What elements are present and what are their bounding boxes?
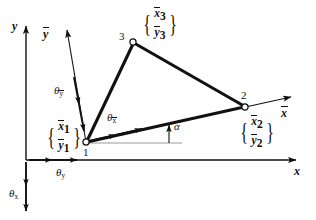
node-1-xbar-component: x1 <box>58 120 70 136</box>
node-label-2: 2 <box>241 90 247 101</box>
local-ybar-axis-label: y <box>43 27 48 40</box>
local-xbar-axis-label: x <box>281 106 287 119</box>
theta-x-label: θx <box>9 188 18 201</box>
alpha-angle-marker <box>88 125 182 143</box>
node-markers <box>83 39 248 145</box>
theta-ybar-double-arrow-a <box>74 77 79 104</box>
brace-left-2: { <box>240 121 248 142</box>
global-y-axis-label: y <box>12 20 17 32</box>
node-3-ybar-component: y3 <box>154 26 165 42</box>
node-3-xbar-component: x3 <box>154 7 166 23</box>
edge-3-2 <box>134 43 244 106</box>
node-marker-2 <box>242 104 248 110</box>
brace-right-3: } <box>169 13 177 34</box>
theta-xbar-label: θx <box>107 112 116 125</box>
node-2-ybar-component: y2 <box>251 134 262 150</box>
element-edges <box>87 43 244 142</box>
node-marker-3 <box>130 39 136 45</box>
node-2-xbar-component: x2 <box>251 115 263 131</box>
node-2-displacement-vector: { x2 y2 } <box>234 111 280 153</box>
brace-left-1: { <box>47 126 55 147</box>
figure-canvas: y x y x θx θy θy θx α 1 2 3 { <box>0 0 316 220</box>
brace-left-3: { <box>143 13 151 34</box>
node-1-ybar-component: y1 <box>58 139 69 155</box>
brace-right-1: } <box>73 126 81 147</box>
node-label-3: 3 <box>119 31 125 42</box>
global-rotation-arrows <box>26 160 77 211</box>
edge-1-3 <box>87 44 133 141</box>
theta-ybar-label: θy <box>54 85 63 98</box>
global-x-axis-label: x <box>294 165 300 177</box>
theta-y-label: θy <box>56 167 65 180</box>
node-1-displacement-vector: { x1 y1 } <box>41 116 87 158</box>
node-3-displacement-vector: { x3 y3 } <box>137 3 183 45</box>
alpha-angle-label: α <box>174 121 180 132</box>
brace-right-2: } <box>266 121 274 142</box>
